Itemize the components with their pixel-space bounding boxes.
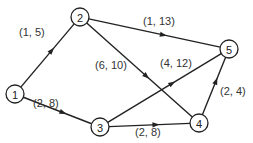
arrow-icon: [168, 82, 175, 88]
node-label: 5: [226, 44, 232, 56]
edge-label: (2, 8): [33, 97, 59, 109]
arrow-icon: [59, 109, 66, 114]
edge-label: (6, 10): [95, 59, 127, 71]
edge-label: (2, 8): [135, 126, 161, 138]
network-diagram: (1, 5)(2, 8)(1, 13)(6, 10)(4, 12)(2, 8)(…: [0, 0, 253, 143]
node-1: 1: [6, 85, 24, 103]
edge-label: (1, 13): [143, 15, 175, 27]
edge-label: (2, 4): [220, 85, 246, 97]
edge-label: (4, 12): [160, 57, 192, 69]
node-3: 3: [91, 118, 109, 136]
edge-label: (1, 5): [19, 26, 45, 38]
node-label: 2: [77, 12, 83, 24]
arrow-icon: [212, 78, 217, 85]
edges-layer: [21, 19, 226, 128]
edge-labels-layer: (1, 5)(2, 8)(1, 13)(6, 10)(4, 12)(2, 8)(…: [19, 15, 246, 138]
node-5: 5: [220, 40, 238, 58]
node-label: 3: [97, 122, 103, 134]
node-4: 4: [190, 114, 208, 132]
node-label: 1: [12, 89, 18, 101]
node-2: 2: [71, 8, 89, 26]
node-label: 4: [196, 118, 202, 130]
